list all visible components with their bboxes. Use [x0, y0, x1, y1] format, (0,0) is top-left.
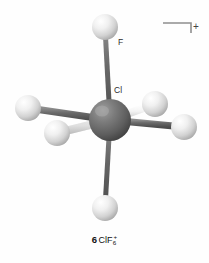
caption-index: 6 — [92, 234, 97, 245]
ligand-atoms-back — [15, 14, 168, 121]
fluorine-right — [171, 114, 197, 140]
formula-base: ClF — [99, 235, 113, 245]
fluorine-upper-left — [15, 95, 41, 121]
charge-plus-sign: + — [193, 22, 199, 32]
fluorine-upper-right — [142, 91, 168, 117]
fluorine-lower-left — [44, 120, 70, 146]
charge-bracket — [163, 23, 191, 33]
fluorine-top — [92, 14, 118, 40]
formula-superscript: + — [114, 233, 118, 240]
molecule-canvas — [0, 0, 209, 263]
figure-caption: 6ClF6+ — [0, 234, 209, 246]
fluorine-label: F — [118, 38, 123, 47]
caption-formula: ClF6+ — [99, 235, 118, 245]
chlorine-label: Cl — [114, 86, 122, 95]
chlorine-center — [89, 99, 131, 141]
molecule-figure: F Cl + 6ClF6+ — [0, 0, 209, 263]
fluorine-bottom — [92, 195, 118, 221]
